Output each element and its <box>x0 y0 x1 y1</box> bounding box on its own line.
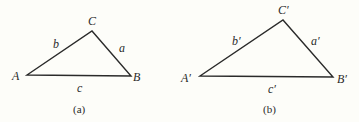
caption-b: (b) <box>263 103 276 116</box>
caption-a: (a) <box>73 103 86 116</box>
similar-triangles-diagram: A B C a b c (a) A′ B′ C′ a′ b′ c′ (b) <box>0 0 359 122</box>
side-label-c-prime: c′ <box>268 82 276 96</box>
side-label-c: c <box>77 81 83 95</box>
side-label-a-prime: a′ <box>311 34 320 48</box>
triangle-b: A′ B′ C′ a′ b′ c′ (b) <box>180 3 347 116</box>
triangle-a-outline <box>27 31 131 76</box>
triangle-a: A B C a b c (a) <box>11 14 141 116</box>
vertex-label-A-prime: A′ <box>180 71 191 85</box>
side-label-a: a <box>119 41 125 55</box>
vertex-label-B: B <box>133 70 141 84</box>
vertex-label-C: C <box>88 14 97 28</box>
vertex-label-A: A <box>11 69 20 83</box>
side-label-b: b <box>53 37 59 51</box>
triangle-b-outline <box>200 20 333 77</box>
vertex-label-C-prime: C′ <box>278 3 289 17</box>
side-label-b-prime: b′ <box>232 34 241 48</box>
vertex-label-B-prime: B′ <box>337 72 347 86</box>
